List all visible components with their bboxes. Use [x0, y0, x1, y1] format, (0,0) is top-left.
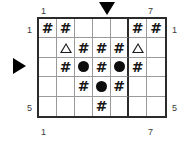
- column-label-top-right: 7: [148, 7, 153, 16]
- hash-glyph: #: [60, 59, 72, 73]
- grid-cell[interactable]: [147, 77, 165, 96]
- grid-cell[interactable]: [39, 58, 57, 77]
- hash-glyph: #: [113, 40, 125, 54]
- open-triangle-glyph: [132, 43, 144, 53]
- grid-puzzle-canvas: 1 7 1 7 1 5 1 5 #############: [0, 0, 188, 146]
- row-label-left-bottom: 5: [27, 104, 32, 113]
- grid-cell[interactable]: [93, 77, 111, 96]
- grid-cell[interactable]: [39, 38, 57, 57]
- grid-cell[interactable]: [57, 38, 75, 57]
- grid-cell[interactable]: [129, 77, 147, 96]
- grid-cell[interactable]: #: [93, 97, 111, 116]
- grid-cell[interactable]: [75, 97, 93, 116]
- hash-glyph: #: [78, 79, 90, 93]
- grid-cell[interactable]: #: [39, 19, 57, 38]
- hash-glyph: #: [132, 59, 144, 73]
- grid-cell[interactable]: #: [147, 19, 165, 38]
- grid-cell[interactable]: #: [93, 58, 111, 77]
- column-label-bottom-left: 1: [41, 128, 46, 137]
- filled-circle-glyph: [114, 61, 125, 72]
- grid-cell[interactable]: [75, 19, 93, 38]
- grid-cell[interactable]: [111, 58, 129, 77]
- grid-cell[interactable]: [147, 38, 165, 57]
- hash-glyph: #: [60, 21, 72, 35]
- hash-glyph: #: [96, 40, 108, 54]
- row-label-left-top: 1: [27, 26, 32, 35]
- grid-cell[interactable]: [111, 19, 129, 38]
- filled-circle-glyph: [78, 61, 89, 72]
- filled-circle-glyph: [96, 81, 107, 92]
- right-triangle-marker: [13, 58, 26, 74]
- hash-glyph: #: [96, 59, 108, 73]
- grid-cell[interactable]: [57, 97, 75, 116]
- hash-glyph: #: [150, 21, 162, 35]
- grid-cell[interactable]: #: [57, 19, 75, 38]
- grid-cell[interactable]: [147, 58, 165, 77]
- puzzle-grid: #############: [37, 17, 167, 118]
- grid-cell[interactable]: #: [93, 38, 111, 57]
- grid-cell[interactable]: [111, 97, 129, 116]
- grid-cell[interactable]: [75, 58, 93, 77]
- open-triangle-glyph: [60, 43, 72, 53]
- grid-cell[interactable]: #: [111, 77, 129, 96]
- grid-cell[interactable]: [39, 97, 57, 116]
- grid-cell[interactable]: [57, 77, 75, 96]
- grid-cell[interactable]: #: [57, 58, 75, 77]
- grid-cell[interactable]: #: [75, 77, 93, 96]
- hash-glyph: #: [96, 99, 108, 113]
- grid-cell[interactable]: [39, 77, 57, 96]
- grid-cell[interactable]: [129, 97, 147, 116]
- hash-glyph: #: [113, 79, 125, 93]
- grid-cell[interactable]: [129, 38, 147, 57]
- column-label-top-left: 1: [41, 7, 46, 16]
- grid-cell[interactable]: #: [75, 38, 93, 57]
- column-label-bottom-right: 7: [148, 128, 153, 137]
- row-label-right-bottom: 5: [172, 104, 177, 113]
- grid-cell[interactable]: #: [129, 58, 147, 77]
- grid-cell[interactable]: [147, 97, 165, 116]
- grid-cell[interactable]: #: [129, 19, 147, 38]
- down-triangle-marker: [99, 2, 115, 15]
- hash-glyph: #: [132, 21, 144, 35]
- grid-cell[interactable]: #: [111, 38, 129, 57]
- hash-glyph: #: [78, 40, 90, 54]
- row-label-right-top: 1: [172, 26, 177, 35]
- grid-cell[interactable]: [93, 19, 111, 38]
- hash-glyph: #: [42, 21, 54, 35]
